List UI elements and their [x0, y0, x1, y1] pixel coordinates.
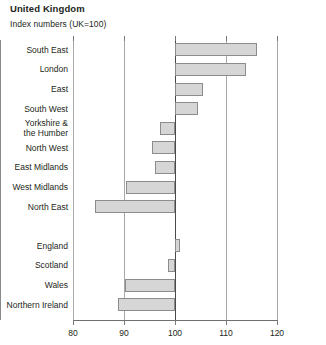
bar-north-west: [152, 141, 175, 154]
category-label-south-west: South West: [0, 104, 68, 114]
bar-scotland: [168, 259, 175, 272]
category-label-south-east: South East: [0, 45, 68, 55]
category-label-west-midlands: West Midlands: [0, 182, 68, 192]
category-label-line: East: [0, 84, 68, 94]
category-label-northern-ireland: Northern Ireland: [0, 300, 68, 310]
x-tick-label-100: 100: [168, 328, 182, 338]
category-label-line: London: [0, 64, 68, 74]
bar-south-east: [175, 43, 257, 56]
tick-top-100: [175, 36, 176, 41]
bar-england: [175, 239, 180, 252]
bar-south-west: [175, 102, 198, 115]
category-label-line: the Humber: [0, 128, 68, 138]
bar-east-midlands: [155, 161, 175, 174]
category-label-line: Scotland: [0, 260, 68, 270]
tick-top-90: [124, 36, 125, 41]
category-label-line: North East: [0, 202, 68, 212]
category-label-yorkshire-the-humber: Yorkshire &the Humber: [0, 118, 68, 138]
x-tick-label-120: 120: [270, 328, 284, 338]
category-label-line: East Midlands: [0, 162, 68, 172]
bar-yorkshire-the-humber: [160, 122, 175, 135]
category-label-north-west: North West: [0, 143, 68, 153]
category-label-line: Yorkshire &: [0, 118, 68, 128]
gridline-110: [226, 40, 227, 320]
category-label-london: London: [0, 64, 68, 74]
tick-top-80: [73, 36, 74, 41]
category-label-line: Northern Ireland: [0, 300, 68, 310]
category-label-east: East: [0, 84, 68, 94]
category-label-scotland: Scotland: [0, 260, 68, 270]
chart-subtitle: Index numbers (UK=100): [10, 19, 106, 29]
tick-bottom-90: [124, 320, 125, 325]
bar-east: [175, 83, 203, 96]
bar-london: [175, 63, 246, 76]
category-label-line: North West: [0, 143, 68, 153]
tick-bottom-120: [277, 320, 278, 325]
category-label-north-east: North East: [0, 202, 68, 212]
tick-top-120: [277, 36, 278, 41]
tick-bottom-80: [73, 320, 74, 325]
category-label-england: England: [0, 241, 68, 251]
category-label-line: West Midlands: [0, 182, 68, 192]
bar-north-east: [95, 200, 175, 213]
gridline-120: [277, 40, 278, 320]
x-tick-label-110: 110: [219, 328, 233, 338]
bar-wales: [125, 279, 175, 292]
chart-container: United Kingdom Index numbers (UK=100) 80…: [0, 0, 326, 345]
x-tick-label-80: 80: [68, 328, 77, 338]
tick-bottom-100: [175, 320, 176, 325]
bar-west-midlands: [126, 181, 175, 194]
category-label-line: South East: [0, 45, 68, 55]
tick-bottom-110: [226, 320, 227, 325]
category-label-east-midlands: East Midlands: [0, 162, 68, 172]
category-label-line: England: [0, 241, 68, 251]
gridline-80: [73, 40, 74, 320]
category-label-wales: Wales: [0, 280, 68, 290]
bar-northern-ireland: [118, 298, 175, 311]
x-tick-label-90: 90: [119, 328, 128, 338]
category-label-line: Wales: [0, 280, 68, 290]
chart-title: United Kingdom: [10, 3, 85, 14]
y-axis-line: [0, 40, 1, 320]
category-label-line: South West: [0, 104, 68, 114]
tick-top-110: [226, 36, 227, 41]
